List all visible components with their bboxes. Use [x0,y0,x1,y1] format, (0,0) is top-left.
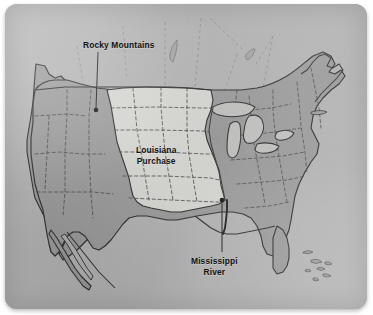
label-mississippi-river: Mississippi River [191,256,238,277]
label-louisiana-purchase: Louisiana Purchase [136,145,176,166]
rocky-mountains-dot [94,108,99,113]
label-mississippi-river-line-1: Mississippi [191,256,238,267]
label-rocky-mountains: Rocky Mountains [83,40,155,51]
us-map-illustration [5,4,367,309]
mississippi-river-dot [220,198,225,203]
map-card: Rocky Mountains Louisiana Purchase Missi… [5,4,367,309]
label-louisiana-purchase-line-1: Louisiana [136,145,176,156]
label-louisiana-purchase-line-2: Purchase [136,156,176,167]
label-mississippi-river-line-2: River [191,267,238,278]
label-rocky-mountains-line-1: Rocky Mountains [83,40,155,51]
